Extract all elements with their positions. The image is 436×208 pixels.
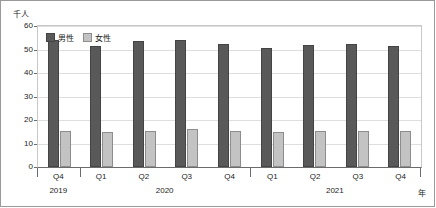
legend-item: 女性 — [83, 32, 111, 43]
x-axis-quarter-label: Q3 — [165, 170, 208, 184]
bar-male — [346, 44, 357, 167]
y-axis-tick-label: 20 — [7, 116, 33, 124]
y-axis-unit-label: 千人 — [13, 8, 29, 19]
bar-female — [102, 132, 113, 167]
bar-male — [48, 40, 59, 167]
bar-female — [187, 129, 198, 167]
x-axis-year-label: 2020 — [80, 184, 250, 197]
y-axis-tick-labels: 6050403020100 — [5, 25, 33, 168]
bar-group — [81, 26, 124, 167]
x-axis-quarter-label: Q3 — [336, 170, 379, 184]
legend-swatch-icon — [83, 33, 92, 42]
x-axis-year-label: 2019 — [37, 184, 80, 197]
y-axis-tick-label: 0 — [7, 163, 33, 171]
bar-female — [60, 131, 71, 167]
legend-label: 女性 — [95, 32, 111, 43]
x-axis-quarter-labels: Q4Q1Q2Q3Q4Q1Q2Q3Q4 — [37, 170, 422, 184]
bar-male — [388, 46, 399, 167]
bar-female — [315, 131, 326, 167]
x-axis-quarter-label: Q4 — [379, 170, 422, 184]
bar-group — [379, 26, 422, 167]
bar-group — [293, 26, 336, 167]
x-axis-quarter-label: Q4 — [208, 170, 251, 184]
y-axis-tick-label: 40 — [7, 69, 33, 77]
bar-male — [175, 40, 186, 167]
y-axis-tick-label: 10 — [7, 140, 33, 148]
bar-female — [358, 131, 369, 167]
x-axis-quarter-label: Q1 — [251, 170, 294, 184]
chart-frame: 千人 6050403020100 男性女性 Q4Q1Q2Q3Q4Q1Q2Q3Q4… — [0, 0, 435, 207]
x-axis-unit-label: 年 — [418, 187, 426, 198]
legend-swatch-icon — [46, 33, 55, 42]
bar-female — [400, 131, 411, 167]
chart-legend: 男性女性 — [46, 32, 111, 43]
y-axis-tick-label: 50 — [7, 46, 33, 54]
bar-group — [336, 26, 379, 167]
x-axis-year-labels: 201920202021 — [37, 184, 422, 198]
bar-group — [166, 26, 209, 167]
bar-female — [273, 132, 284, 167]
x-axis-quarter-label: Q1 — [80, 170, 123, 184]
y-axis-tick-label: 60 — [7, 22, 33, 30]
bar-series-container — [38, 26, 421, 167]
bar-group — [208, 26, 251, 167]
bar-female — [145, 131, 156, 167]
bar-male — [133, 41, 144, 167]
bar-male — [218, 44, 229, 167]
bar-female — [230, 131, 241, 167]
x-axis-quarter-label: Q4 — [37, 170, 80, 184]
y-axis-tick-label: 30 — [7, 93, 33, 101]
legend-label: 男性 — [58, 32, 74, 43]
x-axis-quarter-label: Q2 — [123, 170, 166, 184]
legend-item: 男性 — [46, 32, 74, 43]
bar-male — [261, 48, 272, 167]
x-axis-quarter-label: Q2 — [294, 170, 337, 184]
x-axis-year-label: 2021 — [250, 184, 420, 197]
plot-area: 男性女性 — [37, 25, 422, 168]
bar-male — [90, 46, 101, 167]
bar-group — [251, 26, 294, 167]
bar-group — [38, 26, 81, 167]
bar-group — [123, 26, 166, 167]
bar-male — [303, 45, 314, 167]
